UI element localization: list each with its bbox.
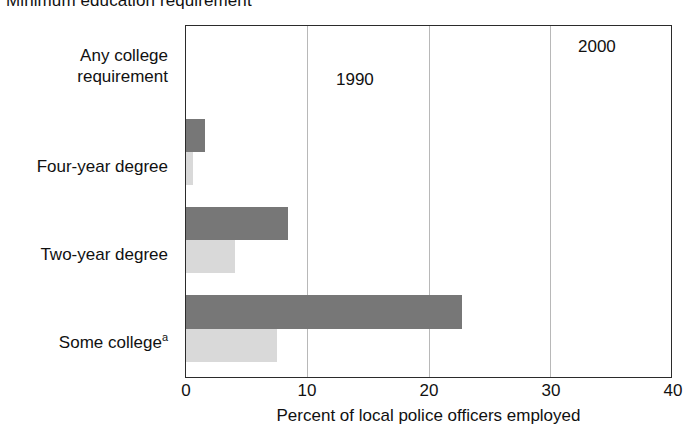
bar-1990-some-college [186,329,277,362]
bar-2000-two-year-degree [186,207,288,240]
x-tick-40: 40 [653,381,693,401]
category-label-two-year-degree: Two-year degree [40,244,168,265]
category-label-line1: Two-year degree [40,245,168,264]
chart-title: Minimum education requirement [6,0,252,10]
category-label-line1: Some college [59,333,162,352]
category-label-any-college: Any college requirement [77,45,168,87]
series-annotation-2000: 2000 [578,37,616,56]
category-label-some-college: Some collegea [59,332,168,353]
y-axis-category-labels: Any college requirement Four-year degree… [0,25,176,378]
x-tick-20: 20 [409,381,449,401]
x-axis-ticks: 0 10 20 30 40 [0,381,698,405]
x-axis-label: Percent of local police officers employe… [185,406,672,426]
category-label-four-year-degree: Four-year degree [37,156,168,177]
bar-1990-two-year-degree [186,240,235,273]
category-label-line1: Four-year degree [37,157,168,176]
plot-area: 2000 1990 [185,25,672,378]
category-label-line2: requirement [77,66,168,87]
bar-2000-four-year-degree [186,119,205,152]
category-label-line1: Any college [77,45,168,66]
gridline-30 [550,26,551,377]
x-tick-0: 0 [166,381,206,401]
series-annotation-1990: 1990 [336,70,374,89]
bar-2000-some-college [186,295,462,329]
bar-1990-four-year-degree [186,152,193,185]
chart-figure: Minimum education requirement Any colleg… [0,0,698,438]
x-tick-10: 10 [287,381,327,401]
x-tick-30: 30 [531,381,571,401]
footnote-marker-a: a [162,331,168,343]
